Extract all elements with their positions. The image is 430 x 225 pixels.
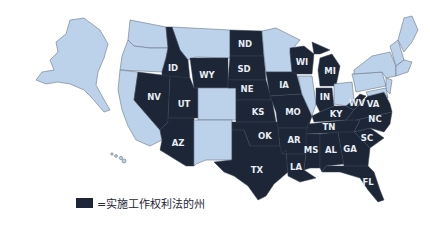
state-mi <box>312 42 340 86</box>
state-nm <box>194 120 232 166</box>
label-mo: MO <box>285 107 301 117</box>
label-ok: OK <box>258 131 272 141</box>
label-ne: NE <box>241 84 254 94</box>
state-fl <box>322 166 384 202</box>
label-tx: TX <box>251 165 264 175</box>
legend-swatch-right-to-work <box>76 198 93 208</box>
label-ia: IA <box>279 80 289 90</box>
label-in: IN <box>320 92 330 102</box>
label-fl: FL <box>362 177 374 187</box>
state-me <box>398 16 418 52</box>
label-wi: WI <box>296 57 309 67</box>
label-ms: MS <box>304 145 319 155</box>
state-co <box>198 88 236 120</box>
label-id: ID <box>168 63 178 73</box>
label-la: LA <box>290 162 302 172</box>
label-az: AZ <box>172 138 185 148</box>
label-sd: SD <box>237 64 250 74</box>
label-nc: NC <box>368 114 381 124</box>
state-ak <box>36 18 110 112</box>
label-wv: WV <box>349 98 365 108</box>
legend-label: =实施工作权利法的州 <box>97 195 205 211</box>
label-ga: GA <box>343 144 357 154</box>
label-nd: ND <box>238 39 252 49</box>
label-ks: KS <box>252 107 265 117</box>
state-hi <box>111 153 126 163</box>
map-legend: =实施工作权利法的州 <box>76 195 205 211</box>
state-wa <box>128 20 168 48</box>
label-al: AL <box>325 145 338 155</box>
label-sc: SC <box>361 133 373 143</box>
label-tn: TN <box>323 122 336 132</box>
us-right-to-work-map: ND SD NE KS OK TX ID WY NV UT AZ WI MI I… <box>0 0 430 225</box>
label-ut: UT <box>178 99 191 109</box>
label-ky: KY <box>330 109 344 119</box>
label-mi: MI <box>324 66 336 76</box>
label-nv: NV <box>147 92 161 102</box>
label-wy: WY <box>199 70 215 80</box>
label-ar: AR <box>287 135 301 145</box>
label-va: VA <box>367 99 380 109</box>
